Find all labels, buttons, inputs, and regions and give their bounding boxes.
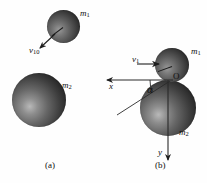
label-angle-alpha: α: [147, 86, 153, 95]
label-m2-panel-b: m2: [179, 128, 189, 138]
line-of-centers: [117, 81, 170, 115]
label-v1: v1: [132, 55, 139, 65]
panel-b: m1 m2 v1 x y O α (b): [103, 0, 207, 183]
panel-a: m1 m2 v10 (a): [0, 0, 103, 183]
label-m1-panel-b: m1: [191, 47, 201, 57]
panel-b-vectors: [103, 0, 207, 183]
figure-canvas: m1 m2 v10 (a): [0, 0, 207, 183]
label-m2-panel-a: m2: [62, 81, 72, 91]
vector-v10-arrow: [0, 0, 103, 183]
label-axis-x: x: [109, 82, 113, 91]
label-axis-y: y: [158, 148, 162, 157]
caption-panel-b: (b): [155, 160, 166, 170]
label-m1-panel-a: m1: [80, 9, 90, 19]
caption-panel-a: (a): [45, 160, 55, 170]
label-origin-O: O: [173, 72, 180, 81]
label-v10: v10: [29, 46, 40, 56]
